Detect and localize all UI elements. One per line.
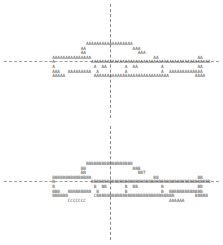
bottom-figure: BBBBBBBBBBBBBBBBBB BB BBB BB BBT BBBBBBB… (0, 120, 223, 245)
ascii-car-bottom: BBBBBBBBBBBBBBBBBB BB BBB BB BBT BBBBBBB… (47, 162, 210, 203)
top-figure: AAAAAAAAAAAAAAAAAA AA AAA AA AAA AAAAAAA… (0, 0, 223, 120)
ascii-car-top: AAAAAAAAAAAAAAAAAA AA AAA AA AAA AAAAAAA… (47, 42, 210, 79)
